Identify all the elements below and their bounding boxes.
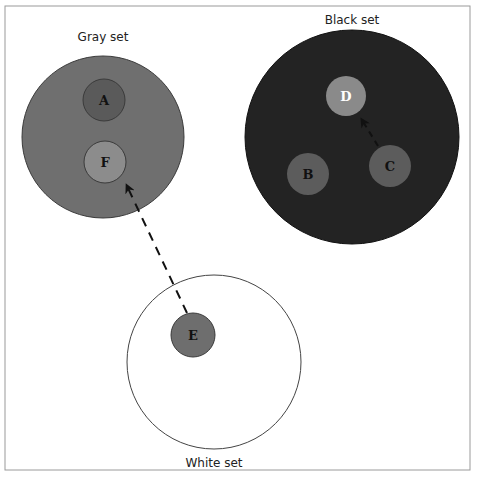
gray-set-label: Gray set [78,30,129,44]
node-c: C [369,145,411,187]
black-set-circle [245,30,459,244]
node-d: D [326,76,366,116]
node-a: A [83,79,125,121]
node-e: E [171,313,215,357]
white-set-circle [127,275,301,449]
node-e-label: E [188,328,198,343]
node-f-label: F [100,155,110,170]
black-set-label: Black set [325,13,380,27]
node-c-label: C [385,159,395,174]
set-diagram: Gray set A F Black set D B C White set [0,0,477,486]
node-b-label: B [303,167,314,182]
node-b: B [287,153,329,195]
node-a-label: A [98,93,110,108]
node-f: F [84,141,126,183]
node-d-label: D [340,89,351,104]
white-set-label: White set [185,456,242,470]
